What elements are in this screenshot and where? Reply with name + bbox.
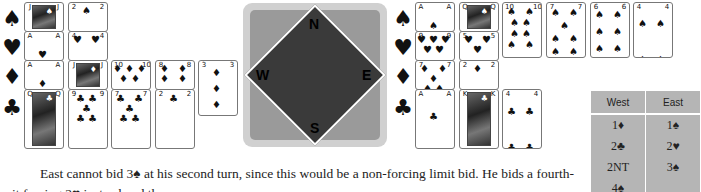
card-east-diamond-7: 7 7 ♦ ♦♦♦♦	[415, 60, 455, 90]
face-card-image: ♠	[32, 5, 56, 29]
diamond-pips-icon: ♦ ♦♦♦♦	[416, 64, 454, 90]
card-east-spade-4: 4 4 ♠ ♠♠ ♠	[633, 2, 673, 58]
card-west-diamond-3: 3 3 ♦♦♦	[198, 60, 238, 116]
diamond-suit-icon: ♦	[393, 66, 413, 88]
card-rank: A	[55, 33, 61, 40]
heart-suit-icon: ♥	[393, 37, 413, 59]
card-rank: A	[418, 4, 424, 11]
heart-pips-icon: ♥ ♥	[69, 35, 107, 45]
bid-cell: 3♠	[646, 157, 701, 178]
bidding-header-east: East	[646, 91, 701, 115]
compass-west-label: W	[256, 67, 269, 83]
club-suit-icon: ♣	[2, 97, 22, 119]
club-pip-icon: ♣	[416, 112, 454, 122]
club-pips-icon: ♣ ♣♣♣♣	[112, 94, 150, 124]
face-card-image: ♦	[76, 63, 100, 87]
compass-south-label: S	[310, 120, 319, 136]
card-west-club-2: 2 2 ♣	[155, 89, 195, 149]
card-east-heart-5: 5 5 ♥ ♥♥	[459, 31, 499, 61]
compass-north-label: N	[309, 16, 319, 32]
bid-cell: 1♠	[646, 114, 701, 136]
spade-pip-icon: ♠	[416, 21, 454, 31]
card-west-club-queen: Q Q ♣	[24, 89, 64, 149]
card-rank: A	[418, 91, 424, 98]
card-west-spade-2: 2 2 ♠	[68, 2, 108, 32]
card-west-heart-ace: A A ♥	[24, 31, 64, 61]
club-suit-icon: ♣	[393, 97, 413, 119]
card-rank: A	[27, 33, 33, 40]
bid-cell: 2♥	[646, 136, 701, 157]
card-west-spade-jack: J J ♠	[24, 2, 64, 32]
bid-cell: 4♠	[591, 178, 646, 192]
explanation-paragraph: East cannot bid 3♠ at his second turn, s…	[0, 164, 580, 192]
card-west-diamond-ace: A A ♦	[24, 60, 64, 90]
card-west-diamond-8: 8 8 ♦ ♦♦ ♦	[155, 60, 195, 90]
diamond-pips-icon: ♦ ♦♦ ♦	[156, 64, 194, 84]
card-east-spade-queen: Q Q ♠	[459, 2, 499, 32]
diamond-pips-icon: ♦♦♦	[199, 65, 237, 113]
heart-pips-icon: ♥ ♥♥	[460, 35, 498, 55]
club-pip-icon: ♣	[156, 94, 194, 104]
spade-pips-icon: ♠ ♠♠ ♠	[634, 6, 672, 58]
card-west-diamond-jack: J J ♦	[68, 60, 108, 90]
bidding-table: West East 1♦ 1♠ 2♣ 2♥ 2NT 3♠ 4♠	[590, 90, 701, 192]
diamond-pips-icon: ♦♦♦♦♦	[112, 64, 150, 84]
card-west-diamond-10: 10 10 ♦♦♦♦♦	[111, 60, 151, 90]
card-west-heart-4: 4 4 ♥ ♥	[68, 31, 108, 61]
card-east-club-4: 4 4 ♣ ♣♣ ♣	[502, 89, 542, 149]
explanation-text: East cannot bid 3♠ at his second turn, s…	[0, 164, 580, 192]
heart-pip-icon: ♥	[25, 50, 63, 60]
bid-cell	[646, 178, 701, 192]
card-rank: A	[55, 62, 61, 69]
spade-pip-icon: ♠	[69, 6, 107, 16]
card-east-heart-9: 9 9 ♥♥♥♥♥	[415, 31, 455, 61]
card-rank: A	[446, 91, 452, 98]
card-west-club-9: 9 9 ♣♣♣♣♣	[68, 89, 108, 149]
diamond-suit-icon: ♦	[2, 66, 22, 88]
spade-pips-icon: ♠ ♠♠ ♠♠ ♠	[591, 6, 629, 57]
card-east-club-king: K K ♣	[459, 89, 499, 149]
bid-cell: 2NT	[591, 157, 646, 178]
bid-cell: 1♦	[591, 114, 646, 136]
face-card-image: ♣	[467, 92, 491, 146]
card-rank: A	[27, 62, 33, 69]
club-pips-icon: ♣ ♣♣ ♣	[503, 94, 541, 149]
face-card-image: ♣	[32, 92, 56, 146]
heart-suit-icon: ♥	[2, 37, 22, 59]
club-pips-icon: ♣♣♣♣♣	[69, 94, 107, 124]
spade-suit-icon: ♠	[2, 8, 22, 30]
spade-pips-icon: ♠ ♠♠♠♠♠♠ ♠	[503, 6, 541, 50]
compass-east-label: E	[362, 67, 371, 83]
card-east-spade-6: 6 6 ♠ ♠♠ ♠♠ ♠	[590, 2, 630, 58]
diamond-pip-icon: ♦	[460, 64, 498, 74]
card-east-spade-10: 10 10 ♠ ♠♠♠♠♠♠ ♠	[502, 2, 542, 58]
card-east-club-ace: A A ♣	[415, 89, 455, 149]
card-east-diamond-2: 2 2 ♦	[459, 60, 499, 90]
bidding-header-west: West	[591, 91, 646, 115]
card-east-spade-ace: A A ♠	[415, 2, 455, 32]
card-west-club-7: 7 7 ♣ ♣♣♣♣	[111, 89, 151, 149]
compass-table-diagram: N W E S	[243, 3, 387, 147]
bid-cell: 2♣	[591, 136, 646, 157]
spade-pips-icon: ♠ ♠♠♠ ♠♠ ♠	[547, 6, 585, 58]
card-east-spade-7: 7 7 ♠ ♠♠♠ ♠♠ ♠	[546, 2, 586, 58]
face-card-image: ♠	[467, 5, 491, 29]
spade-suit-icon: ♠	[393, 8, 413, 30]
card-rank: A	[446, 4, 452, 11]
diamond-pip-icon: ♦	[25, 79, 63, 89]
heart-pips-icon: ♥♥♥♥♥	[416, 35, 454, 55]
